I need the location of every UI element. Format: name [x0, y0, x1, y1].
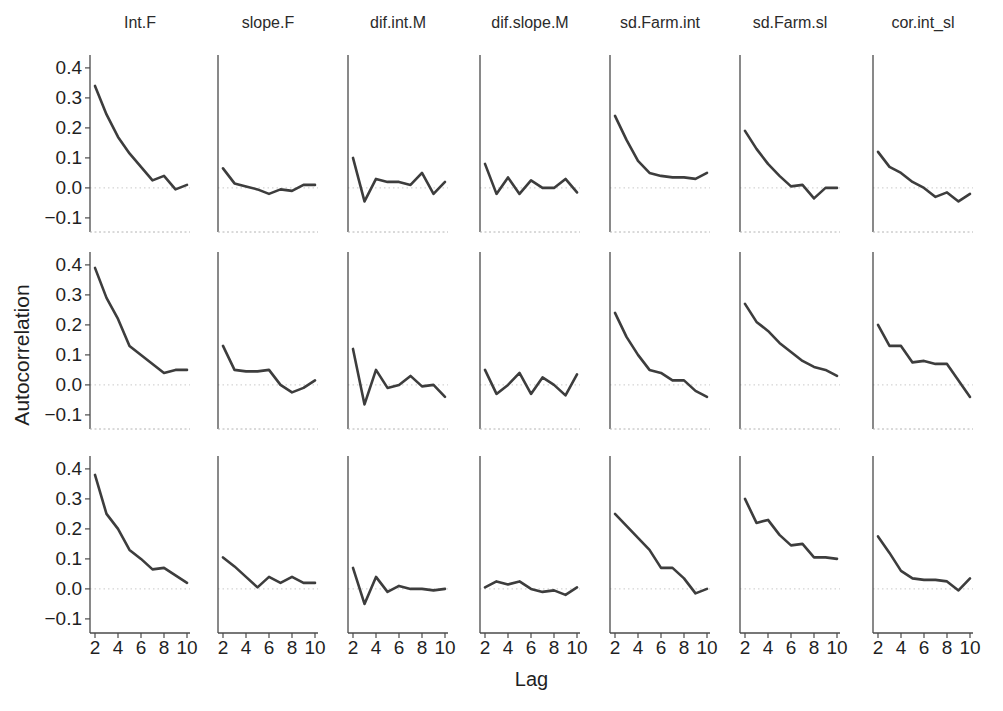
- panel-row1-Int.F: [81, 55, 193, 247]
- y-tick-label: 0.4: [36, 57, 82, 79]
- y-tick-label: 0.1: [36, 344, 82, 366]
- acf-line: [878, 152, 970, 202]
- panel-row3-dif.int.M: [339, 456, 451, 648]
- panel-row1-cor.int_sl: [864, 55, 976, 247]
- panel-row2-dif.int.M: [339, 252, 451, 444]
- panel-row2-cor.int_sl: [864, 252, 976, 444]
- panel-row3-sd.Farm.int: [601, 456, 713, 648]
- y-tick-label: −0.1: [36, 608, 82, 630]
- y-tick-label: 0.4: [36, 254, 82, 276]
- panel-row3-Int.F: [81, 456, 193, 648]
- acf-line: [485, 164, 577, 194]
- panel-title-dif.slope.M: dif.slope.M: [465, 14, 595, 32]
- panel-row1-slope.F: [209, 55, 321, 247]
- y-tick-label: −0.1: [36, 207, 82, 229]
- panel-row2-sd.Farm.int: [601, 252, 713, 444]
- acf-line: [353, 158, 445, 202]
- panel-row2-dif.slope.M: [471, 252, 583, 444]
- panel-row3-cor.int_sl: [864, 456, 976, 648]
- y-tick-label: 0.0: [36, 578, 82, 600]
- panel-row2-slope.F: [209, 252, 321, 444]
- panel-row1-sd.Farm.int: [601, 55, 713, 247]
- panel-title-sd.Farm.int: sd.Farm.int: [595, 14, 725, 32]
- y-tick-label: 0.3: [36, 284, 82, 306]
- acf-line: [745, 499, 837, 559]
- panel-row2-sd.Farm.sl: [731, 252, 843, 444]
- acf-line: [353, 349, 445, 405]
- panel-title-sd.Farm.sl: sd.Farm.sl: [725, 14, 855, 32]
- acf-line: [485, 370, 577, 396]
- panel-title-dif.int.M: dif.int.M: [333, 14, 463, 32]
- y-tick-label: 0.2: [36, 117, 82, 139]
- acf-line: [485, 581, 577, 595]
- acf-line: [95, 268, 187, 373]
- x-axis-label: Lag: [90, 668, 973, 691]
- panel-row3-dif.slope.M: [471, 456, 583, 648]
- acf-trellis-figure: Autocorrelation Lag Int.Fslope.Fdif.int.…: [0, 0, 1003, 711]
- y-tick-label: 0.2: [36, 518, 82, 540]
- panel-row3-sd.Farm.sl: [731, 456, 843, 648]
- panel-row3-slope.F: [209, 456, 321, 648]
- acf-line: [353, 568, 445, 604]
- acf-line: [878, 536, 970, 590]
- acf-line: [615, 116, 707, 179]
- y-axis-label: Autocorrelation: [10, 275, 34, 435]
- panel-title-cor.int_sl: cor.int_sl: [858, 14, 988, 32]
- acf-line: [615, 313, 707, 397]
- acf-line: [878, 325, 970, 397]
- acf-line: [95, 86, 187, 189]
- panel-row2-Int.F: [81, 252, 193, 444]
- y-tick-label: 0.2: [36, 314, 82, 336]
- acf-line: [95, 475, 187, 583]
- y-tick-label: 0.0: [36, 374, 82, 396]
- panel-title-slope.F: slope.F: [203, 14, 333, 32]
- acf-line: [223, 168, 315, 194]
- panel-row1-dif.slope.M: [471, 55, 583, 247]
- y-tick-label: 0.0: [36, 177, 82, 199]
- panel-row1-sd.Farm.sl: [731, 55, 843, 247]
- panel-title-Int.F: Int.F: [75, 14, 205, 32]
- acf-line: [615, 514, 707, 594]
- y-tick-label: 0.3: [36, 488, 82, 510]
- y-tick-label: 0.4: [36, 458, 82, 480]
- y-tick-label: −0.1: [36, 404, 82, 426]
- panel-row1-dif.int.M: [339, 55, 451, 247]
- y-tick-label: 0.3: [36, 87, 82, 109]
- acf-line: [223, 557, 315, 587]
- acf-line: [745, 304, 837, 376]
- y-tick-label: 0.1: [36, 548, 82, 570]
- acf-line: [223, 346, 315, 393]
- y-tick-label: 0.1: [36, 147, 82, 169]
